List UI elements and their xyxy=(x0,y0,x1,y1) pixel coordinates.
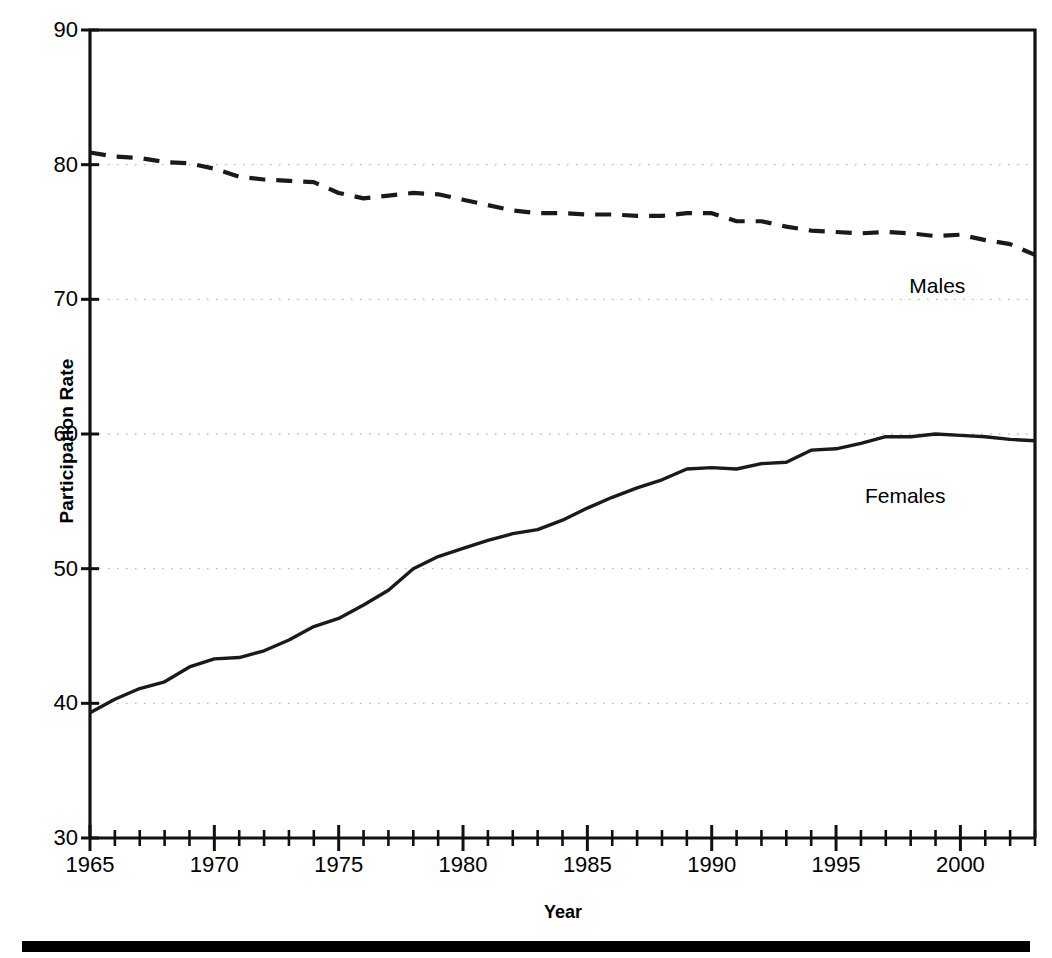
y-tick-label-30: 30 xyxy=(18,825,78,851)
data-series xyxy=(90,153,1035,713)
x-tick-label-1970: 1970 xyxy=(164,852,264,878)
x-tick-label-1985: 1985 xyxy=(537,852,637,878)
series-annotation-females: Females xyxy=(865,484,946,508)
x-axis-tick-labels: 19651970197519801985199019952000 xyxy=(0,852,1052,892)
series-line-females xyxy=(90,434,1035,713)
y-axis-title: Participation Rate xyxy=(56,311,78,571)
plot-frame xyxy=(90,30,1035,838)
y-tick-label-90: 90 xyxy=(18,17,78,43)
y-tick-label-80: 80 xyxy=(18,152,78,178)
series-line-males xyxy=(90,153,1035,255)
x-axis-title: Year xyxy=(90,902,1036,923)
chart-figure: 30405060708090 1965197019751980198519901… xyxy=(0,0,1052,958)
x-tick-label-1995: 1995 xyxy=(786,852,886,878)
x-tick-label-1975: 1975 xyxy=(289,852,389,878)
x-tick-label-1965: 1965 xyxy=(40,852,140,878)
y-tick-label-40: 40 xyxy=(18,690,78,716)
y-tick-label-70: 70 xyxy=(18,286,78,312)
line-chart-plot xyxy=(0,0,1052,958)
gridlines xyxy=(90,165,1035,704)
x-tick-label-1980: 1980 xyxy=(413,852,513,878)
bottom-divider xyxy=(22,941,1030,952)
x-tick-label-2000: 2000 xyxy=(910,852,1010,878)
x-tick-label-1990: 1990 xyxy=(662,852,762,878)
series-annotation-males: Males xyxy=(909,274,965,298)
